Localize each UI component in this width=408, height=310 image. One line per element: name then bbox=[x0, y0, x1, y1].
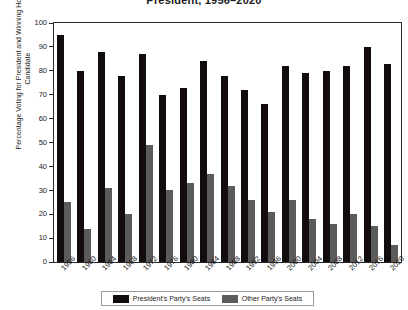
y-axis-tick-label: 20 bbox=[39, 210, 49, 218]
bar bbox=[200, 61, 207, 262]
bar-group bbox=[364, 23, 378, 262]
bar bbox=[261, 104, 268, 262]
bar bbox=[180, 88, 187, 262]
bar bbox=[166, 190, 173, 262]
bar-group bbox=[302, 23, 316, 262]
bar-group bbox=[139, 23, 153, 262]
x-axis-tick-label: 2012 bbox=[344, 264, 358, 306]
bar bbox=[221, 76, 228, 262]
x-axis-tick-label: 2020 bbox=[385, 264, 399, 306]
x-axis-tick-label: 2016 bbox=[364, 264, 378, 306]
x-axis-tick-label: 1956 bbox=[56, 264, 70, 306]
bar bbox=[282, 66, 289, 262]
bar bbox=[241, 90, 248, 262]
y-axis-tick-label: 40 bbox=[39, 163, 49, 171]
bar-group bbox=[57, 23, 71, 262]
bar bbox=[248, 200, 255, 262]
bar-group bbox=[159, 23, 173, 262]
plot-area bbox=[53, 22, 402, 263]
bar bbox=[364, 47, 371, 262]
bar bbox=[302, 73, 309, 262]
bar-group bbox=[241, 23, 255, 262]
bar bbox=[323, 71, 330, 262]
y-axis-ticks: 0102030405060708090100 bbox=[0, 22, 53, 263]
bar bbox=[98, 52, 105, 262]
legend-item: Other Party's Seats bbox=[222, 295, 302, 303]
bar bbox=[268, 212, 275, 262]
y-axis-tick-label: 50 bbox=[39, 139, 49, 147]
bar bbox=[77, 71, 84, 262]
bar-group bbox=[221, 23, 235, 262]
y-axis-tick-label: 80 bbox=[39, 67, 49, 75]
bar bbox=[105, 188, 112, 262]
y-axis-tick-label: 100 bbox=[34, 19, 49, 27]
y-axis-tick-label: 90 bbox=[39, 43, 49, 51]
bar bbox=[118, 76, 125, 262]
bar-group bbox=[180, 23, 194, 262]
y-axis-tick-label: 70 bbox=[39, 91, 49, 99]
chart-container: President, 1956–2020 Percentage Voting f… bbox=[0, 0, 408, 310]
bar bbox=[384, 64, 391, 262]
bar bbox=[146, 145, 153, 262]
bar-group bbox=[77, 23, 91, 262]
y-axis-tick-label: 10 bbox=[39, 234, 49, 242]
bar-group bbox=[118, 23, 132, 262]
bar bbox=[159, 95, 166, 262]
bar bbox=[289, 200, 296, 262]
bar-group bbox=[98, 23, 112, 262]
bar-group bbox=[200, 23, 214, 262]
bar bbox=[228, 186, 235, 262]
legend-swatch bbox=[113, 295, 129, 303]
bar bbox=[57, 35, 64, 262]
legend-swatch bbox=[222, 295, 238, 303]
bar-group bbox=[282, 23, 296, 262]
bar bbox=[139, 54, 146, 262]
bar bbox=[350, 214, 357, 262]
bar bbox=[187, 183, 194, 262]
bar bbox=[64, 202, 71, 262]
bar-group bbox=[323, 23, 337, 262]
bar-groups bbox=[54, 23, 401, 262]
legend-item: President's Party's Seats bbox=[113, 295, 210, 303]
legend-label: President's Party's Seats bbox=[133, 295, 210, 302]
x-axis-tick-label: 1960 bbox=[77, 264, 91, 306]
x-axis-tick-label: 2008 bbox=[323, 264, 337, 306]
bar bbox=[207, 174, 214, 262]
bar-group bbox=[261, 23, 275, 262]
chart-legend: President's Party's SeatsOther Party's S… bbox=[101, 291, 314, 306]
y-axis-tick-label: 60 bbox=[39, 115, 49, 123]
chart-title: President, 1956–2020 bbox=[0, 0, 408, 6]
legend-label: Other Party's Seats bbox=[242, 295, 302, 302]
y-axis-tick-label: 30 bbox=[39, 187, 49, 195]
bar bbox=[343, 66, 350, 262]
bar-group bbox=[384, 23, 398, 262]
bar-group bbox=[343, 23, 357, 262]
